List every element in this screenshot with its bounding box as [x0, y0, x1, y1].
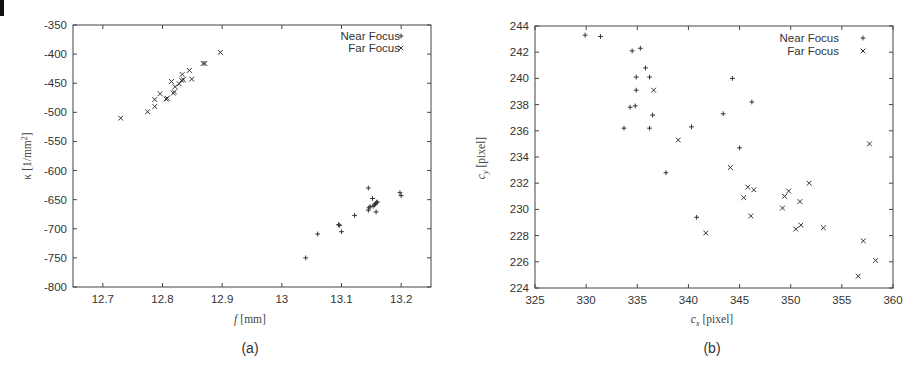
series-far-focus	[651, 88, 878, 279]
y-tick-label: 230	[510, 203, 529, 215]
x-tick-label: 350	[781, 294, 800, 306]
plot-area-a: 12.712.812.91313.113.2-350-400-450-500-5…	[44, 19, 431, 305]
caption-b: (b)	[703, 340, 720, 356]
x-tick-label: 340	[679, 294, 698, 306]
x-tick-label: 12.7	[92, 293, 114, 305]
x-axis-label-b: cx[pixel]	[691, 313, 733, 328]
x-tick-label: 355	[832, 294, 851, 306]
x-tick-label: 13.1	[330, 293, 352, 305]
x-tick-label: 325	[525, 294, 544, 306]
x-tick-label: 13.2	[390, 293, 412, 305]
y-tick-label: -450	[44, 77, 67, 89]
legend-near-focus-label: Near Focus	[341, 30, 401, 42]
chart-panel-b: 3253303353403453503553602242262282302322…	[457, 0, 914, 368]
legend-far-focus-label: Far Focus	[348, 42, 400, 54]
legend-b: Near Focus Far Focus	[780, 32, 866, 57]
series-near-focus	[583, 33, 755, 220]
data-points-b	[583, 33, 878, 279]
y-tick-label: 240	[510, 72, 529, 84]
x-tick-label: 13	[275, 293, 288, 305]
plot-area-b: 3253303353403453503553602242262282302322…	[510, 20, 903, 306]
y-tick-label: 244	[510, 20, 530, 32]
y-tick-label: 236	[510, 125, 529, 137]
scatter-plot-a: 12.712.812.91313.113.2-350-400-450-500-5…	[0, 0, 457, 368]
series-near-focus	[303, 186, 403, 261]
x-tick-label: 360	[883, 294, 902, 306]
y-tick-label: 242	[510, 46, 529, 58]
x-tick-label: 345	[730, 294, 749, 306]
y-tick-label: -350	[44, 19, 67, 31]
chart-panel-a: 12.712.812.91313.113.2-350-400-450-500-5…	[0, 0, 457, 368]
y-tick-label: -600	[44, 165, 67, 177]
x-axis-label-a: f[mm]	[234, 313, 266, 326]
caption-a: (a)	[241, 340, 258, 356]
x-tick-label: 12.8	[151, 293, 173, 305]
data-points-a	[118, 50, 403, 260]
series-far-focus	[118, 50, 222, 121]
y-tick-label: -500	[44, 106, 67, 118]
y-tick-label: -700	[44, 223, 67, 235]
y-axis-label-a: κ[1/mm2]	[20, 132, 33, 179]
x-tick-label: 330	[577, 294, 596, 306]
y-tick-label: 224	[510, 282, 530, 294]
y-tick-label: 238	[510, 99, 529, 111]
y-tick-label: 234	[510, 151, 530, 163]
y-tick-label: -750	[44, 252, 67, 264]
legend-near-focus-label: Near Focus	[780, 32, 840, 44]
legend-far-focus-label: Far Focus	[787, 45, 839, 57]
y-tick-label: -650	[44, 194, 67, 206]
scatter-plot-b: 3253303353403453503553602242262282302322…	[457, 0, 914, 368]
y-tick-label: -550	[44, 135, 67, 147]
y-tick-label: 226	[510, 256, 529, 268]
y-tick-label: 228	[510, 230, 529, 242]
legend-a: Near Focus Far Focus	[341, 30, 404, 54]
y-tick-label: 232	[510, 177, 529, 189]
y-axis-label-b: cy[pixel]	[475, 137, 490, 179]
x-tick-label: 12.9	[211, 293, 233, 305]
y-tick-label: -800	[44, 281, 67, 293]
y-tick-label: -400	[44, 48, 67, 60]
x-tick-label: 335	[628, 294, 647, 306]
